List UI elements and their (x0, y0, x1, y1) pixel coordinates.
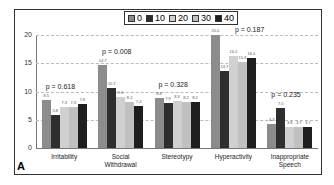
p-value-annotation: p = 0.618 (46, 83, 75, 90)
p-value-annotation: p = 0.187 (235, 26, 264, 33)
category-label: Irritability (36, 153, 92, 161)
bar (155, 98, 164, 148)
gridline (36, 63, 318, 64)
x-axis (36, 148, 318, 149)
bar (182, 102, 191, 148)
bar (69, 107, 78, 148)
p-value-annotation: p = 0.008 (102, 48, 131, 55)
bar (229, 56, 238, 148)
bar (164, 103, 173, 148)
bar (173, 101, 182, 148)
category-label: Speech (262, 161, 318, 169)
x-category: Stereotypy (149, 153, 205, 161)
category-label: Withdrawal (93, 161, 149, 169)
panel-label: A (17, 160, 25, 172)
bar (276, 108, 285, 148)
p-value-annotation: p = 0.235 (271, 91, 300, 98)
value-label: 20.0 (208, 28, 222, 33)
bar (98, 65, 107, 148)
bar (134, 106, 143, 148)
category-label: Inappropriate (262, 153, 318, 161)
x-category: Irritability (36, 153, 92, 161)
x-category: InappropriateSpeech (262, 153, 318, 169)
gridline (36, 35, 318, 36)
value-label: 16.0 (244, 51, 258, 56)
bar (220, 71, 229, 148)
bar (285, 127, 294, 148)
bar (303, 127, 312, 148)
bar (211, 35, 220, 148)
category-label: Stereotypy (149, 153, 205, 161)
plot-area: 051015208.55.87.37.37.8p = 0.618Irritabi… (0, 0, 334, 185)
bar (60, 107, 69, 148)
value-label: 7.8 (75, 97, 89, 102)
value-label: 3.7 (301, 120, 315, 125)
value-label: 8.2 (188, 95, 202, 100)
p-value-annotation: p = 0.328 (159, 81, 188, 88)
bar (42, 100, 51, 148)
bar (267, 124, 276, 148)
category-label: Hyperactivity (205, 153, 261, 161)
bar (125, 102, 134, 148)
x-category: SocialWithdrawal (93, 153, 149, 169)
value-label: 7.4 (132, 99, 146, 104)
bar (116, 97, 125, 148)
y-tick-label: 15 (16, 59, 32, 66)
bar (238, 62, 247, 148)
category-label: Social (93, 153, 149, 161)
bar (51, 115, 60, 148)
y-tick-label: 5 (16, 116, 32, 123)
y-tick-label: 0 (16, 144, 32, 151)
bar (247, 58, 256, 148)
bar (191, 102, 200, 148)
bar (294, 127, 303, 148)
bar (107, 88, 116, 148)
bar (78, 104, 87, 148)
value-label: 7.0 (274, 101, 288, 106)
y-tick-label: 20 (16, 31, 32, 38)
x-category: Hyperactivity (205, 153, 261, 161)
value-label: 10.7 (105, 81, 119, 86)
y-tick-label: 10 (16, 88, 32, 95)
value-label: 8.5 (39, 93, 53, 98)
value-label: 14.7 (96, 58, 110, 63)
